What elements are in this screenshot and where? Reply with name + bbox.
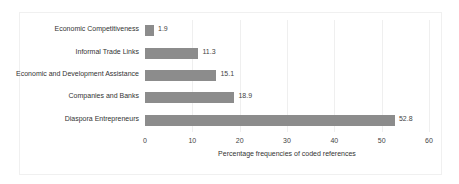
data-label: 18.9 bbox=[238, 92, 252, 99]
category-label: Economic and Development Assistance bbox=[16, 70, 139, 77]
data-label: 11.3 bbox=[202, 48, 215, 55]
category-label: Informal Trade Links bbox=[76, 48, 139, 55]
x-tick-label: 20 bbox=[236, 137, 244, 144]
x-axis-title: Percentage frequencies of coded referenc… bbox=[218, 150, 356, 157]
x-tick-label: 30 bbox=[283, 137, 291, 144]
x-tick-label: 0 bbox=[143, 137, 147, 144]
data-label: 52.8 bbox=[399, 115, 413, 122]
bar bbox=[145, 25, 154, 36]
x-tick-label: 40 bbox=[330, 137, 338, 144]
bar bbox=[145, 70, 216, 81]
category-label: Economic Competitiveness bbox=[55, 25, 139, 32]
gridline bbox=[429, 20, 430, 132]
category-label: Diaspora Entrepreneurs bbox=[65, 115, 139, 122]
data-label: 1.9 bbox=[158, 25, 168, 32]
bar bbox=[145, 115, 395, 126]
x-tick-label: 10 bbox=[188, 137, 196, 144]
x-tick-label: 60 bbox=[425, 137, 433, 144]
data-label: 15.1 bbox=[220, 70, 234, 77]
x-tick-label: 50 bbox=[378, 137, 386, 144]
bar bbox=[145, 48, 198, 59]
bar bbox=[145, 92, 234, 103]
category-label: Companies and Banks bbox=[69, 92, 139, 99]
plot-area bbox=[145, 20, 429, 132]
